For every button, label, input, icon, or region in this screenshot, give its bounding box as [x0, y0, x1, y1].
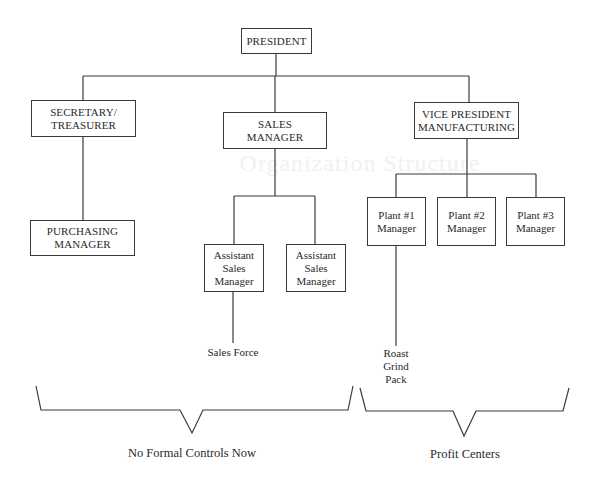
assistant-sales-manager-label-1: Assistant Sales Manager — [214, 249, 254, 288]
purchasing-manager-label: PURCHASING MANAGER — [47, 225, 118, 251]
plant-2-manager-label: Plant #2 Manager — [447, 209, 486, 235]
plant-3-manager-label: Plant #3 Manager — [516, 209, 555, 235]
secretary-treasurer-box: SECRETARY/ TREASURER — [31, 100, 136, 137]
left-bracket-caption: No Formal Controls Now — [122, 446, 262, 461]
sales-manager-label: SALES MANAGER — [247, 118, 303, 144]
purchasing-manager-box: PURCHASING MANAGER — [30, 220, 135, 256]
plant-1-operations-label: Roast Grind Pack — [376, 347, 416, 386]
plant-1-manager-box: Plant #1 Manager — [367, 197, 426, 246]
secretary-treasurer-label: SECRETARY/ TREASURER — [50, 106, 117, 132]
assistant-sales-manager-label-2: Assistant Sales Manager — [296, 249, 336, 288]
president-box: PRESIDENT — [241, 28, 312, 54]
plant-2-manager-box: Plant #2 Manager — [437, 197, 496, 246]
bracket-right — [360, 388, 569, 436]
sales-manager-box: SALES MANAGER — [223, 112, 327, 149]
plant-3-manager-box: Plant #3 Manager — [506, 197, 565, 246]
vp-manufacturing-box: VICE PRESIDENT MANUFACTURING — [414, 102, 519, 139]
vp-manufacturing-label: VICE PRESIDENT MANUFACTURING — [418, 108, 515, 134]
bracket-left — [36, 386, 353, 433]
assistant-sales-manager-box-2: Assistant Sales Manager — [286, 244, 346, 292]
president-label: PRESIDENT — [246, 35, 306, 48]
plant-1-manager-label: Plant #1 Manager — [377, 209, 416, 235]
right-bracket-caption: Profit Centers — [430, 447, 500, 462]
assistant-sales-manager-box-1: Assistant Sales Manager — [204, 244, 264, 292]
sales-force-label: Sales Force — [198, 346, 268, 359]
